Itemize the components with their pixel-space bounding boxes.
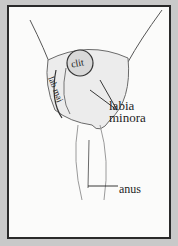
label-labia-minora-line2: minora xyxy=(109,112,146,124)
label-clit: clit xyxy=(70,56,85,69)
lower-region-outline xyxy=(76,125,107,200)
label-anus: anus xyxy=(119,183,141,195)
label-labia-minora: labia minora xyxy=(109,100,146,124)
right-contour-line xyxy=(128,10,162,62)
schematic-diagram: clit lab maj xyxy=(0,0,178,246)
